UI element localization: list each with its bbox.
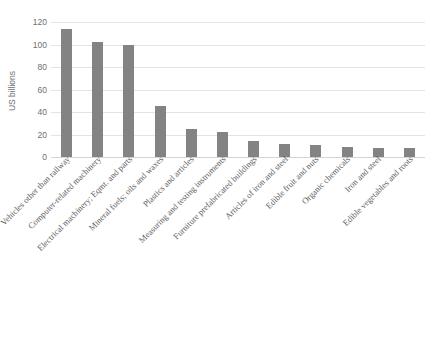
x-tick-label: Edible fruit and nuts xyxy=(320,160,321,161)
x-tick-label: Edible vegetables and roots xyxy=(413,160,414,161)
y-axis-tick-labels: 020406080100120 xyxy=(9,22,47,157)
x-tick-label: Plastics and articles xyxy=(195,160,196,161)
x-tick-label: Mineral fuels; oils and waxes xyxy=(164,160,165,161)
x-tick-label: Furniture prefabricated buildings xyxy=(258,160,259,161)
x-tick-label: Measuring and testing instruments xyxy=(226,160,227,161)
y-tick-label-20: 20 xyxy=(13,131,47,140)
y-tick-label-40: 40 xyxy=(13,108,47,117)
y-tick-label-60: 60 xyxy=(13,86,47,95)
bar xyxy=(61,29,72,157)
x-tick-label: Iron and steel xyxy=(382,160,383,161)
bar xyxy=(155,106,166,157)
x-tick-label: Organic chemicals xyxy=(351,160,352,161)
bar xyxy=(123,45,134,158)
x-tick-label: Articles of iron and steel xyxy=(289,160,290,161)
x-tick-label: Vehicles other than railway xyxy=(71,160,72,161)
x-tick-label: Electrical machinery; Eqmt. and parts xyxy=(133,160,134,161)
bar-series xyxy=(51,22,425,157)
x-tick-label: Computer-related machinery xyxy=(102,160,103,161)
y-tick-label-80: 80 xyxy=(13,63,47,72)
bar xyxy=(92,42,103,157)
y-tick-label-120: 120 xyxy=(13,18,47,27)
bar-chart: US billions 020406080100120 Vehicles oth… xyxy=(0,0,437,354)
y-tick-label-100: 100 xyxy=(13,41,47,50)
x-axis-category-labels: Vehicles other than railwayComputer-rela… xyxy=(0,158,437,354)
bar xyxy=(186,129,197,157)
bar xyxy=(217,132,228,157)
